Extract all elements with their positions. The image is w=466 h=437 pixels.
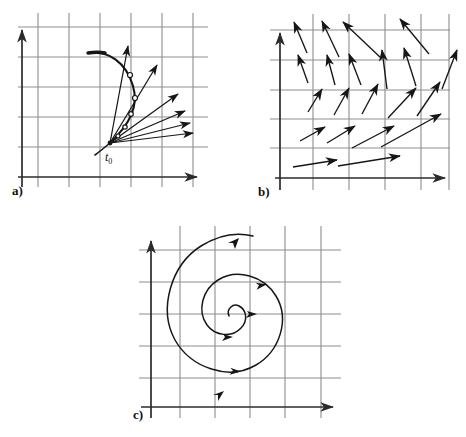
panel-b-svg bbox=[230, 0, 466, 210]
panel-a-caption: a) bbox=[12, 184, 23, 197]
panel-c-spiral-trajectory bbox=[125, 208, 355, 437]
panel-a-curve-thick-head bbox=[88, 52, 105, 53]
panel-b-gridlines bbox=[270, 14, 450, 190]
panel-b-direction-field bbox=[230, 0, 466, 210]
panel-c-svg bbox=[125, 208, 355, 437]
panel-a-tangent-vectors bbox=[0, 0, 233, 210]
panel-a-gridlines bbox=[18, 13, 208, 187]
panel-c-gridlines bbox=[139, 226, 341, 418]
panel-a-base-point-label: t0 bbox=[105, 150, 112, 166]
t0-subscript: 0 bbox=[108, 157, 112, 166]
figure-root: a) t0 bbox=[0, 0, 466, 437]
panel-a-svg bbox=[0, 0, 233, 210]
panel-b-caption: b) bbox=[258, 185, 270, 198]
panel-b-field-arrows bbox=[293, 19, 457, 167]
panel-c-caption: c) bbox=[133, 408, 143, 421]
panel-c-flow-arrowheads bbox=[213, 238, 267, 401]
panel-a-base-point bbox=[108, 141, 113, 146]
panel-c-spiral-curve bbox=[167, 234, 282, 372]
